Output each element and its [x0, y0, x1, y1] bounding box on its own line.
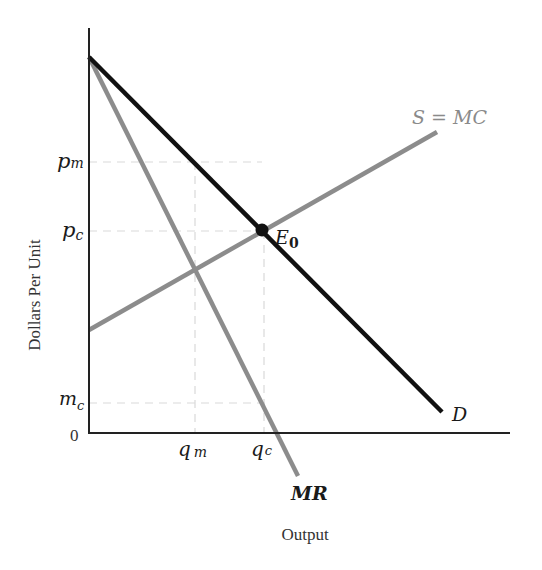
y-axis-title: Dollars Per Unit	[25, 239, 44, 351]
x-axis-title: Output	[281, 525, 329, 544]
marginal-revenue-curve-label: MR	[290, 482, 328, 504]
mc-label: mc	[59, 387, 85, 413]
qm-label: qm	[178, 437, 207, 461]
demand-curve-label: D	[451, 403, 467, 425]
pm-label: pm	[57, 149, 84, 173]
economics-diagram: E0 S = MC D MR pm pc mc 0 qm qc Dollars …	[0, 0, 542, 570]
equilibrium-point	[256, 224, 269, 237]
supply-curve-label: S = MC	[412, 106, 487, 128]
guide-lines	[89, 162, 270, 433]
pc-label: pc	[62, 218, 83, 243]
origin-label: 0	[70, 426, 79, 445]
qc-label: qc	[251, 437, 273, 461]
equilibrium-label: E0	[274, 226, 299, 251]
marginal-revenue-curve	[89, 57, 298, 476]
